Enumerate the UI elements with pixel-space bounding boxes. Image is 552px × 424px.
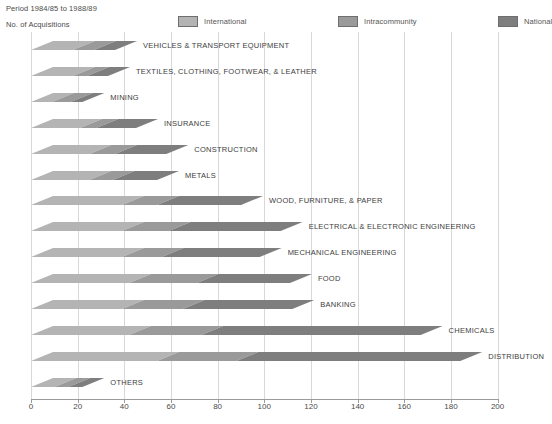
bar-row[interactable]: DISTRIBUTION bbox=[0, 351, 539, 375]
stacked-bar bbox=[0, 351, 488, 364]
bar-category-label: FOOD bbox=[318, 274, 341, 284]
bar-segment-national bbox=[236, 352, 482, 361]
bar-category-label: INSURANCE bbox=[164, 119, 210, 129]
bar-category-label: OTHERS bbox=[110, 378, 143, 388]
plot-area: VEHICLES & TRANSPORT EQUIPMENTTEXTILES, … bbox=[0, 32, 539, 400]
stacked-bar bbox=[0, 247, 288, 260]
bar-category-label: CONSTRUCTION bbox=[194, 145, 257, 155]
bar-category-label: VEHICLES & TRANSPORT EQUIPMENT bbox=[143, 41, 289, 51]
x-tick-label: 40 bbox=[120, 402, 129, 411]
bar-row[interactable]: CONSTRUCTION bbox=[0, 144, 539, 168]
legend-swatch-icon bbox=[498, 16, 518, 27]
bar-row[interactable]: CHEMICALS bbox=[0, 325, 539, 349]
x-tick-label: 0 bbox=[29, 402, 33, 411]
period-label: Period 1984/85 to 1988/89 bbox=[6, 4, 97, 13]
stacked-bar bbox=[0, 273, 318, 286]
x-tick-label: 80 bbox=[213, 402, 222, 411]
bar-row[interactable]: VEHICLES & TRANSPORT EQUIPMENT bbox=[0, 40, 539, 64]
bar-row[interactable]: OTHERS bbox=[0, 377, 539, 401]
stacked-bar bbox=[0, 92, 110, 105]
bar-row[interactable]: MECHANICAL ENGINEERING bbox=[0, 247, 539, 271]
bar-category-label: ELECTRICAL & ELECTRONIC ENGINEERING bbox=[309, 222, 476, 232]
legend-swatch-icon bbox=[338, 16, 358, 27]
bar-segment-national bbox=[201, 326, 442, 335]
legend-item-national[interactable]: National bbox=[498, 14, 552, 28]
stacked-bar bbox=[0, 325, 449, 338]
legend-item-international[interactable]: International bbox=[178, 14, 247, 28]
bar-category-label: BANKING bbox=[320, 300, 356, 310]
bar-category-label: MINING bbox=[110, 93, 139, 103]
bar-category-label: MECHANICAL ENGINEERING bbox=[288, 248, 397, 258]
bar-category-label: DISTRIBUTION bbox=[488, 352, 544, 362]
x-tick-label: 200 bbox=[491, 402, 504, 411]
bar-segment-national bbox=[183, 300, 315, 309]
legend-label: International bbox=[204, 17, 247, 26]
bar-row[interactable]: ELECTRICAL & ELECTRONIC ENGINEERING bbox=[0, 221, 539, 245]
legend-label: Intracommunity bbox=[364, 17, 417, 26]
legend-label: National bbox=[524, 17, 552, 26]
stacked-bar bbox=[0, 66, 136, 79]
x-tick-label: 20 bbox=[73, 402, 82, 411]
bar-row[interactable]: FOOD bbox=[0, 273, 539, 297]
x-tick-label: 100 bbox=[258, 402, 271, 411]
stacked-bar bbox=[0, 40, 143, 53]
stacked-bar bbox=[0, 170, 185, 183]
legend-swatch-icon bbox=[178, 16, 198, 27]
stacked-bar bbox=[0, 299, 320, 312]
bar-segment-international bbox=[31, 352, 179, 361]
legend-item-intracommunity[interactable]: Intracommunity bbox=[338, 14, 417, 28]
bar-category-label: METALS bbox=[185, 171, 216, 181]
bar-series-group: VEHICLES & TRANSPORT EQUIPMENTTEXTILES, … bbox=[0, 32, 539, 400]
yaxis-caption: No. of Acquisitions bbox=[6, 20, 70, 29]
stacked-bar bbox=[0, 118, 164, 131]
stacked-bar bbox=[0, 144, 194, 157]
bar-row[interactable]: BANKING bbox=[0, 299, 539, 323]
x-tick-label: 160 bbox=[398, 402, 411, 411]
x-tick-label: 140 bbox=[351, 402, 364, 411]
x-axis-tick-labels: 020406080100120140160180200 bbox=[0, 402, 539, 416]
stacked-bar bbox=[0, 195, 269, 208]
bar-segment-national bbox=[169, 222, 303, 231]
x-tick-label: 120 bbox=[304, 402, 317, 411]
bar-row[interactable]: METALS bbox=[0, 170, 539, 194]
legend: InternationalIntracommunityNational bbox=[178, 14, 528, 28]
bar-row[interactable]: TEXTILES, CLOTHING, FOOTWEAR, & LEATHER bbox=[0, 66, 539, 90]
bar-category-label: CHEMICALS bbox=[449, 326, 495, 336]
stacked-bar bbox=[0, 221, 309, 234]
stacked-bar bbox=[0, 377, 110, 390]
bar-row[interactable]: MINING bbox=[0, 92, 539, 116]
x-tick-label: 60 bbox=[167, 402, 176, 411]
bar-row[interactable]: WOOD, FURNITURE, & PAPER bbox=[0, 195, 539, 219]
x-tick-label: 180 bbox=[444, 402, 457, 411]
bar-row[interactable]: INSURANCE bbox=[0, 118, 539, 142]
bar-category-label: WOOD, FURNITURE, & PAPER bbox=[269, 196, 383, 206]
bar-category-label: TEXTILES, CLOTHING, FOOTWEAR, & LEATHER bbox=[136, 67, 317, 77]
